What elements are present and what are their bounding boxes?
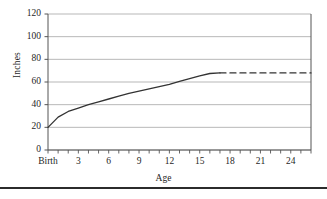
y-tick-label: 100 <box>15 32 41 42</box>
y-tick-label: 80 <box>15 54 41 64</box>
growth-chart-figure: Inches 020406080100120 Birth369121518212… <box>0 0 327 199</box>
y-tick-label: 20 <box>15 122 41 132</box>
x-tick-marks-group <box>48 150 311 154</box>
y-tick-marks-group <box>45 14 49 150</box>
footer-rule <box>0 187 327 189</box>
y-tick-label: 120 <box>15 9 41 19</box>
y-tick-label: 60 <box>15 77 41 87</box>
data-series-group <box>48 73 311 127</box>
y-tick-label: 0 <box>15 145 41 155</box>
y-tick-label: 40 <box>15 100 41 110</box>
plot-canvas <box>0 0 327 199</box>
series-line <box>48 73 220 127</box>
x-axis-title: Age <box>0 173 327 183</box>
x-tick-label: 24 <box>271 157 311 167</box>
